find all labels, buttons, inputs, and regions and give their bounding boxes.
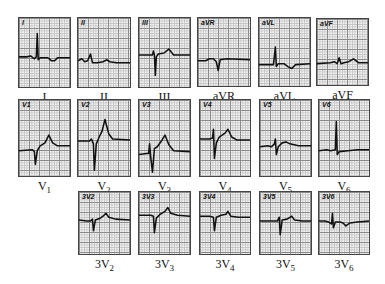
ecg-panel-3v6: 3V6	[318, 191, 370, 255]
ecg-panel-i: I	[18, 17, 71, 88]
caption-subscript: 6	[349, 263, 354, 273]
ecg-panel-v3: V3	[138, 99, 191, 177]
ecg-panel-v4: V4	[199, 99, 251, 177]
ecg-panel-avf: aVF	[316, 18, 369, 86]
ecg-trace	[78, 18, 130, 87]
ecg-panel-avr: aVR	[197, 17, 251, 87]
caption-subscript: 5	[291, 263, 296, 273]
ecg-panel-avl: aVL	[258, 17, 311, 87]
lead-caption-v1: V1	[18, 180, 72, 196]
ecg-panel-v2: V2	[77, 99, 131, 177]
ecg-panel-3v3: 3V3	[138, 191, 191, 255]
lead-caption-3v3: 3V3	[138, 258, 192, 274]
ecg-trace	[79, 192, 130, 254]
caption-subscript: 4	[230, 263, 235, 273]
caption-text: 3V	[276, 257, 291, 271]
caption-subscript: 1	[47, 185, 52, 195]
ecg-trace	[200, 192, 250, 254]
ecg-panel-v5: V5	[259, 99, 312, 177]
ecg-panel-v1: V1	[18, 99, 71, 177]
ecg-trace	[260, 100, 311, 176]
caption-subscript: 3	[170, 263, 175, 273]
lead-caption-3v5: 3V5	[259, 258, 313, 274]
ecg-trace	[319, 100, 369, 176]
caption-text: 3V	[155, 257, 170, 271]
lead-caption-3v6: 3V6	[317, 258, 371, 274]
caption-text: 3V	[334, 257, 349, 271]
ecg-panel-v6: V6	[318, 99, 370, 177]
ecg-panel-3v4: 3V4	[199, 191, 251, 255]
ecg-trace	[139, 18, 190, 87]
caption-text: 3V	[215, 257, 230, 271]
ecg-trace	[259, 18, 310, 86]
ecg-panel-3v5: 3V5	[259, 191, 312, 255]
ecg-trace	[198, 18, 250, 86]
ecg-panel-3v2: 3V2	[78, 191, 131, 255]
ecg-panel-iii: III	[138, 17, 191, 88]
ecg-trace	[78, 100, 130, 176]
ecg-trace	[19, 18, 70, 87]
lead-caption-3v4: 3V4	[198, 258, 252, 274]
caption-text: 3V	[95, 257, 110, 271]
ecg-panel-ii: II	[77, 17, 131, 88]
ecg-trace	[317, 19, 368, 85]
ecg-trace	[139, 100, 190, 176]
ecg-trace	[19, 100, 70, 176]
ecg-trace	[319, 192, 369, 254]
ecg-trace	[139, 192, 190, 254]
caption-text: V	[38, 179, 47, 193]
caption-subscript: 2	[110, 263, 115, 273]
lead-caption-3v2: 3V2	[78, 258, 132, 274]
ecg-trace	[200, 100, 250, 176]
ecg-trace	[260, 192, 311, 254]
